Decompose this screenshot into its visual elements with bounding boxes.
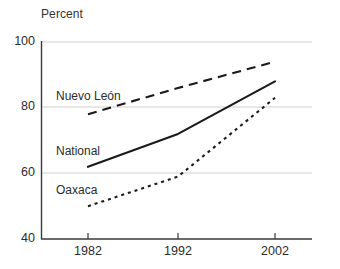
y-tick-label-80: 80 (7, 100, 35, 113)
x-axis-ticks (88, 233, 275, 239)
y-tick-label-40: 40 (7, 232, 35, 245)
x-tick-label-2002: 2002 (253, 245, 297, 258)
series-label-nuevo-leon: Nuevo León (56, 90, 121, 103)
plot-area (0, 0, 340, 269)
y-tick-label-100: 100 (7, 35, 35, 48)
axis-lines (41, 41, 312, 239)
series-label-oaxaca: Oaxaca (56, 184, 97, 197)
x-tick-label-1992: 1992 (156, 245, 200, 258)
line-chart: Percent 100 80 60 40 1982 1992 2002 Nuev… (0, 0, 340, 269)
series-line-nuevo-leon (88, 62, 275, 114)
x-tick-label-1982: 1982 (66, 245, 110, 258)
series-label-national: National (56, 145, 100, 158)
y-tick-label-60: 60 (7, 166, 35, 179)
series-line-oaxaca (88, 98, 275, 206)
series-lines (88, 62, 275, 207)
